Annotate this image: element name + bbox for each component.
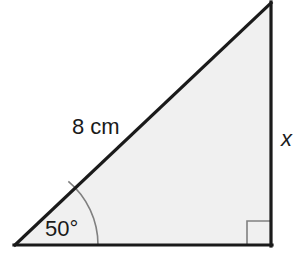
triangle-diagram-svg: 8 cm x 50° (0, 0, 302, 264)
geometry-figure: 8 cm x 50° (0, 0, 302, 264)
hypotenuse-length-label: 8 cm (72, 114, 120, 139)
vertical-side-label: x (280, 126, 293, 151)
angle-measure-label: 50° (45, 216, 78, 241)
